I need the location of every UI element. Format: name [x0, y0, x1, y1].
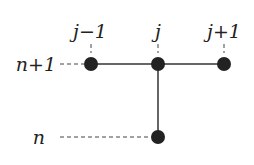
row-label-n-plus-1: n+1: [16, 53, 56, 75]
node-n1-jm1: [84, 57, 98, 71]
node-n-j: [151, 130, 165, 144]
stencil-diagram: j−1 j j+1 n+1 n: [0, 0, 254, 165]
guide-lines: [60, 44, 224, 137]
col-label-j: j: [151, 20, 161, 42]
node-n1-j: [151, 57, 165, 71]
node-n1-jp1: [217, 57, 231, 71]
col-label-j-minus-1: j−1: [69, 20, 107, 42]
col-label-j-plus-1: j+1: [203, 20, 241, 42]
row-label-n: n: [33, 126, 45, 148]
stencil-edges: [91, 64, 224, 137]
